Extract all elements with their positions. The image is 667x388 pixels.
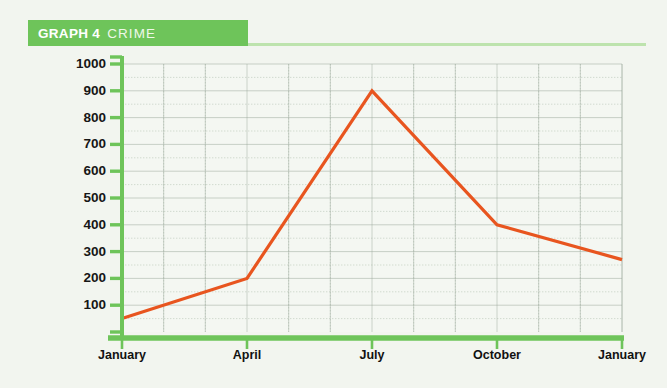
y-axis-tick-label: 300: [58, 245, 106, 259]
x-axis-tick-label: October: [473, 348, 521, 362]
x-axis-tick-label: April: [233, 348, 261, 362]
chart-page: GRAPH 4 CRIME 10009008007006005004003002…: [0, 0, 667, 388]
x-axis-tick-label: January: [98, 348, 146, 362]
y-axis-tick-label: 200: [58, 271, 106, 285]
y-axis-tick-label: 1000: [58, 57, 106, 71]
y-axis-tick-label: 100: [58, 298, 106, 312]
y-axis-tick-label: 400: [58, 218, 106, 232]
x-axis-tick-label: July: [359, 348, 384, 362]
y-axis-tick-label: 800: [58, 111, 106, 125]
y-axis-tick-label: 600: [58, 164, 106, 178]
y-axis-tick-label: 500: [58, 191, 106, 205]
y-axis-tick-label: 700: [58, 137, 106, 151]
y-axis-tick-label: 900: [58, 84, 106, 98]
x-axis-tick-label: January: [598, 348, 646, 362]
